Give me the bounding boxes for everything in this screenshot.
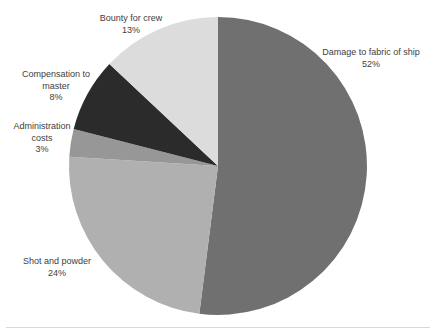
slice-label-compensation-pct: 8%: [16, 92, 96, 104]
pie-chart: Damage to fabric of ship 52% Shot and po…: [0, 0, 436, 331]
slice-label-bounty-pct: 13%: [81, 25, 181, 37]
slice-label-damage: Damage to fabric of ship 52%: [306, 47, 436, 70]
slice-label-shot: Shot and powder 24%: [7, 256, 107, 279]
slice-label-shot-text: Shot and powder: [7, 256, 107, 268]
slice-label-damage-pct: 52%: [306, 59, 436, 71]
slice-label-bounty-text: Bounty for crew: [81, 13, 181, 25]
slice-label-bounty: Bounty for crew 13%: [81, 13, 181, 36]
slice-label-compensation-text: Compensation to master: [16, 69, 96, 92]
slice-label-administration-text: Administration costs: [2, 121, 82, 144]
chart-bottom-border: [6, 327, 430, 328]
slice-label-administration-pct: 3%: [2, 144, 82, 156]
slice-label-shot-pct: 24%: [7, 268, 107, 280]
pie-slice-1: [69, 157, 218, 314]
slice-label-damage-text: Damage to fabric of ship: [306, 47, 436, 59]
slice-label-compensation: Compensation to master 8%: [16, 69, 96, 104]
slice-label-administration: Administration costs 3%: [2, 121, 82, 156]
